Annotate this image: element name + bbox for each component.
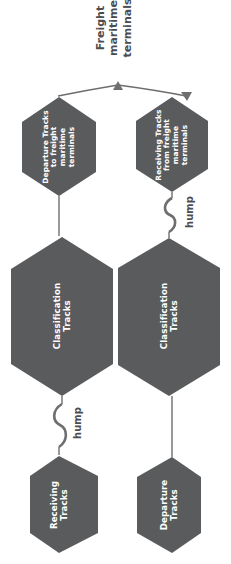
connector-terminals-to-receiving bbox=[118, 85, 186, 96]
node-departure-tracks-to-terminals bbox=[22, 97, 96, 196]
diagram-canvas bbox=[0, 0, 231, 564]
node-receiving-tracks bbox=[30, 456, 98, 553]
arrowhead-into-receiving bbox=[181, 92, 192, 101]
node-departure-tracks bbox=[137, 457, 201, 553]
connector-terminals-from-departure bbox=[58, 85, 118, 96]
connector-layer bbox=[58, 85, 186, 96]
node-classification-tracks-left bbox=[11, 237, 113, 396]
node-layer bbox=[11, 97, 220, 553]
node-receiving-tracks-from-terminals bbox=[136, 97, 208, 192]
arrowhead-layer bbox=[113, 81, 192, 101]
flow-diagram: Freight maritime terminals Departure Tra… bbox=[0, 0, 231, 564]
hump-connector-upper bbox=[165, 192, 175, 238]
node-classification-tracks-right bbox=[118, 238, 220, 396]
hump-connector-lower bbox=[54, 396, 66, 455]
